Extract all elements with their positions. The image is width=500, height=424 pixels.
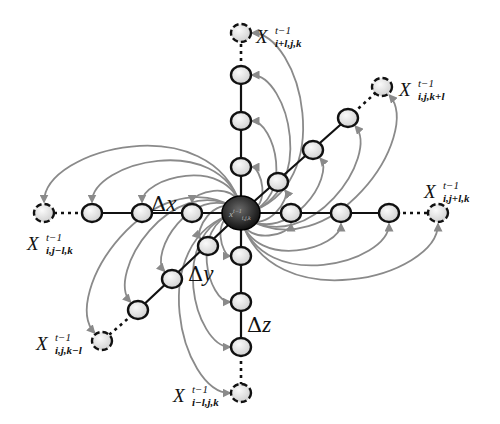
- neighbor-node: [82, 204, 102, 222]
- neighbor-node: [132, 204, 152, 222]
- boundary-neighbor-node: [34, 204, 54, 222]
- label-right-neighbor: X t−1 i,j+l,k: [424, 182, 436, 201]
- neighbor-node: [281, 204, 301, 222]
- label-upper-right-neighbor: X t−1 i,j,k+l: [399, 80, 411, 99]
- boundary-neighbor-node: [428, 204, 448, 222]
- neighbor-node: [231, 112, 251, 130]
- neighbor-node: [198, 237, 218, 255]
- delta-x-label: Δx: [151, 192, 176, 215]
- neighbor-node: [162, 270, 182, 288]
- neighbor-node: [128, 301, 148, 319]
- neighbor-node: [231, 338, 251, 356]
- delta-z-label: Δz: [247, 313, 271, 336]
- label-top-neighbor: X t−1 i+l,j,k: [256, 27, 268, 46]
- neighbor-node: [231, 293, 251, 311]
- neighbor-node: [379, 204, 399, 222]
- neighbor-node: [231, 158, 251, 176]
- neighbor-node: [231, 247, 251, 265]
- neighbor-node: [268, 173, 288, 191]
- neighbor-node: [331, 204, 351, 222]
- neighbor-node: [182, 204, 202, 222]
- boundary-neighbor-node: [92, 332, 112, 350]
- label-bottom-neighbor: X t−1 i−l,j,k: [173, 386, 185, 405]
- label-left-neighbor: X t−1 i,j−l,k: [27, 234, 39, 253]
- neighbor-node: [303, 141, 323, 159]
- boundary-neighbor-node: [231, 384, 251, 402]
- label-lower-left-neighbor: X t−1 i,j,k−l: [36, 334, 48, 353]
- delta-y-label: Δy: [188, 262, 213, 285]
- center-node-label: xt−1i,j,k: [229, 208, 251, 221]
- neighbor-node: [338, 109, 358, 127]
- boundary-neighbor-node: [231, 24, 251, 42]
- boundary-neighbor-node: [372, 78, 392, 96]
- neighbor-node: [231, 66, 251, 84]
